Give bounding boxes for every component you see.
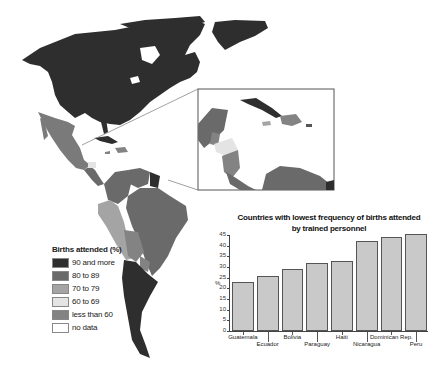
bar-haiti bbox=[331, 261, 353, 331]
x-tick-label: Ecuador bbox=[256, 341, 278, 347]
map-legend: Births attended (%) 90 and more 80 to 89… bbox=[52, 245, 122, 334]
bar-guatemala bbox=[232, 282, 254, 331]
y-tick-label: 20 bbox=[216, 284, 226, 290]
legend-label: 60 to 69 bbox=[72, 297, 99, 306]
chart-title: Countries with lowest frequency of birth… bbox=[229, 212, 429, 234]
y-tick-label: 10 bbox=[216, 306, 226, 312]
y-tick-mark bbox=[227, 235, 230, 236]
y-tick-label: 40 bbox=[216, 242, 226, 248]
chart-title-line-2: by trained personnel bbox=[229, 223, 429, 234]
central-america-region bbox=[84, 166, 104, 186]
legend-item-70-79: 70 to 79 bbox=[52, 282, 122, 295]
bar-peru bbox=[405, 234, 427, 331]
y-tick-mark bbox=[227, 299, 230, 300]
legend-label: 90 and more bbox=[72, 258, 115, 267]
legend-swatch bbox=[52, 297, 69, 307]
bar-nicaragua bbox=[356, 241, 378, 331]
x-tick-label: Haiti bbox=[336, 334, 348, 340]
y-tick-mark bbox=[227, 256, 230, 257]
legend-item-60-69: 60 to 69 bbox=[52, 295, 122, 308]
legend-item-less-than-60: less than 60 bbox=[52, 308, 122, 321]
x-tick-label: Peru bbox=[410, 341, 423, 347]
chart-title-line-1: Countries with lowest frequency of birth… bbox=[229, 212, 429, 223]
y-tick-mark bbox=[227, 288, 230, 289]
legend-swatch bbox=[52, 271, 69, 281]
mexico-region bbox=[38, 112, 90, 170]
legend-swatch bbox=[52, 258, 69, 268]
y-tick-label: 0 bbox=[216, 327, 226, 333]
bar-bolivia bbox=[282, 269, 304, 331]
legend-label: 70 to 79 bbox=[72, 284, 99, 293]
x-tick-label: Dominican Rep. bbox=[370, 334, 413, 340]
x-tick-label: Bolivia bbox=[284, 334, 302, 340]
x-axis bbox=[229, 331, 428, 332]
y-tick-mark bbox=[227, 320, 230, 321]
y-tick-mark bbox=[227, 267, 230, 268]
y-axis bbox=[229, 235, 230, 331]
y-tick-mark bbox=[227, 246, 230, 247]
bar-paraguay bbox=[306, 263, 328, 331]
y-tick-label: 5 bbox=[216, 316, 226, 322]
bar-dominican-rep- bbox=[381, 237, 403, 331]
legend-title: Births attended (%) bbox=[52, 245, 122, 254]
legend-item-no-data: no data bbox=[52, 321, 122, 334]
legend-swatch bbox=[52, 310, 69, 320]
y-tick-mark bbox=[227, 310, 230, 311]
legend-swatch bbox=[52, 284, 69, 294]
legend-label: less than 60 bbox=[72, 310, 113, 319]
y-tick-label: 30 bbox=[216, 263, 226, 269]
venezuela-region bbox=[128, 168, 150, 188]
guianas-region bbox=[150, 172, 160, 188]
greenland-region bbox=[212, 20, 268, 50]
y-tick-mark bbox=[227, 278, 230, 279]
legend-item-80-89: 80 to 89 bbox=[52, 269, 122, 282]
north-america-region bbox=[22, 20, 205, 125]
y-tick-label: 35 bbox=[216, 252, 226, 258]
legend-label: 80 to 89 bbox=[72, 271, 99, 280]
y-tick-label: 25 bbox=[216, 274, 226, 280]
legend-label: no data bbox=[72, 323, 97, 332]
bar-chart: Countries with lowest frequency of birth… bbox=[215, 212, 434, 362]
x-tick-label: Nicaragua bbox=[353, 341, 380, 347]
x-tick-label: Guatemala bbox=[228, 334, 257, 340]
legend-item-90-plus: 90 and more bbox=[52, 256, 122, 269]
bar-ecuador bbox=[257, 276, 279, 331]
y-tick-label: 45 bbox=[216, 231, 226, 237]
y-tick-label: 15 bbox=[216, 295, 226, 301]
x-tick-label: Paraguay bbox=[304, 341, 330, 347]
y-tick-mark bbox=[227, 331, 230, 332]
legend-swatch bbox=[52, 323, 69, 333]
